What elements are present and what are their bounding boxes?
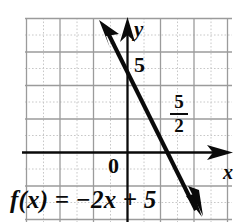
x-intercept-fraction-label: 5 2 bbox=[168, 92, 190, 136]
x-axis-label: x bbox=[223, 162, 233, 182]
y-axis-label: y bbox=[134, 19, 143, 40]
line-arrowhead-upper-left bbox=[99, 20, 119, 48]
origin-label: 0 bbox=[108, 155, 119, 177]
y-intercept-label: 5 bbox=[134, 54, 145, 76]
function-equation: f(x) = −2x + 5 bbox=[10, 186, 156, 214]
graph-figure: y x 5 0 5 2 f(x) = −2x + 5 bbox=[0, 0, 241, 223]
fraction-denominator: 2 bbox=[168, 116, 190, 136]
fraction-numerator: 5 bbox=[168, 92, 190, 112]
